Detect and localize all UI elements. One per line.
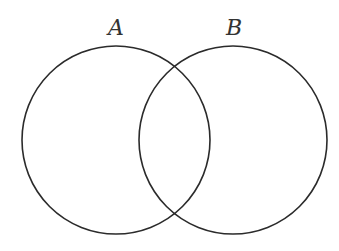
set-b-label: B	[225, 15, 242, 40]
set-b-circle	[139, 46, 327, 234]
set-a-circle	[22, 46, 210, 234]
set-a-label: A	[106, 15, 124, 40]
venn-diagram: A B	[0, 0, 339, 251]
